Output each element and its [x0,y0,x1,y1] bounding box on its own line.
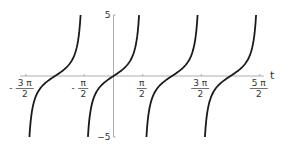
svg-text:π: π [139,78,145,88]
x-tick-label: 5 π2 [250,78,268,99]
x-axis-label: t [270,69,275,82]
svg-text:2: 2 [22,89,28,99]
y-tick-label: 5 [105,10,111,20]
x-tick-label: π2 [137,78,147,99]
svg-text:3 π: 3 π [18,78,33,88]
svg-text:-: - [72,83,75,93]
svg-text:2: 2 [80,89,86,99]
x-tick-label: π2- [72,78,89,99]
svg-text:5 π: 5 π [252,78,267,88]
svg-text:3 π: 3 π [193,78,208,88]
svg-text:-: - [9,83,12,93]
x-tick-label: 3 π2- [9,78,34,99]
y-tick-label: −5 [97,132,110,142]
svg-text:2: 2 [256,89,262,99]
svg-text:2: 2 [197,89,203,99]
svg-text:π: π [81,78,87,88]
svg-text:2: 2 [139,89,145,99]
tan-plot: 3 π2-π2-π23 π25 π25−5t [0,0,293,151]
x-tick-label: 3 π2 [191,78,209,99]
